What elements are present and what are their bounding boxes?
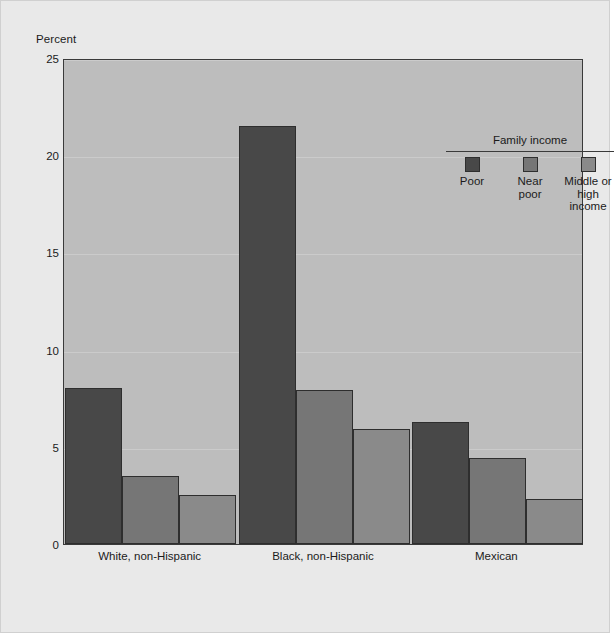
x-tick-label: White, non-Hispanic — [98, 550, 201, 562]
y-tick-label: 25 — [19, 53, 59, 65]
bar — [239, 126, 296, 544]
legend-swatch — [465, 157, 480, 172]
x-tick-label: Mexican — [475, 550, 518, 562]
legend-label: Middle or high income — [560, 175, 616, 213]
bar — [65, 388, 122, 544]
legend-item: Near poor — [502, 157, 558, 200]
bar — [179, 495, 236, 544]
y-tick-label: 0 — [19, 539, 59, 551]
legend-item: Middle or high income — [560, 157, 616, 213]
bar — [296, 390, 353, 544]
bar — [526, 499, 583, 544]
legend-swatch — [581, 157, 596, 172]
bar — [122, 476, 179, 544]
bar — [412, 422, 469, 544]
legend-divider — [446, 151, 614, 152]
y-tick-label: 15 — [19, 247, 59, 259]
x-tick-label: Black, non-Hispanic — [272, 550, 374, 562]
y-tick-label: 5 — [19, 442, 59, 454]
y-axis-tick-labels: 0510152025 — [15, 59, 59, 545]
gridline — [64, 254, 582, 255]
bar — [353, 429, 410, 544]
legend: Family income PoorNear poorMiddle or hig… — [444, 134, 616, 202]
y-tick-label: 20 — [19, 150, 59, 162]
legend-title: Family income — [444, 134, 616, 146]
legend-label: Near poor — [502, 175, 558, 200]
legend-swatch — [523, 157, 538, 172]
x-axis-tick-labels: White, non-HispanicBlack, non-HispanicMe… — [63, 550, 583, 572]
y-axis-title: Percent — [36, 33, 76, 45]
gridline — [64, 60, 582, 61]
plot-area: Family income PoorNear poorMiddle or hig… — [63, 59, 583, 545]
bar — [469, 458, 526, 544]
legend-label: Poor — [444, 175, 500, 188]
y-tick-label: 10 — [19, 345, 59, 357]
gridline — [64, 352, 582, 353]
legend-item: Poor — [444, 157, 500, 188]
